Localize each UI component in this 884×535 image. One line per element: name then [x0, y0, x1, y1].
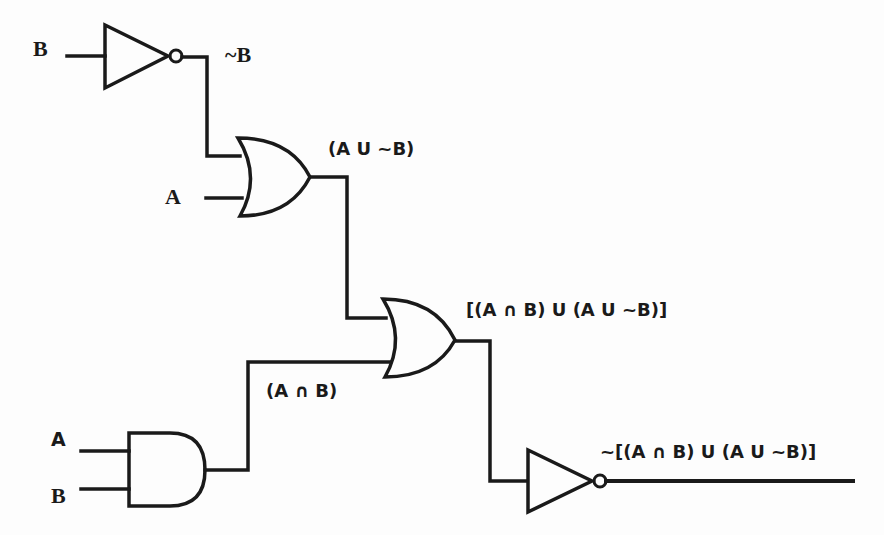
wire-a-and-b — [205, 362, 390, 470]
label-a-and-b: (A ∩ B) — [266, 382, 337, 400]
label-not-b: ~B — [225, 44, 251, 66]
not-gate-1 — [67, 25, 182, 88]
wire-not-b — [182, 57, 240, 156]
label-input-a-or1: A — [165, 186, 181, 208]
label-input-b-and: B — [51, 485, 66, 507]
or-gate-1 — [238, 138, 310, 216]
label-or2-output: [(A ∩ B) U (A U ~B)] — [466, 301, 667, 319]
label-input-a-and: A — [51, 430, 66, 449]
not-gate-1-triangle — [105, 25, 168, 88]
wire-a-or-not-b — [310, 177, 386, 318]
not-gate-2-triangle — [528, 450, 592, 512]
label-input-b-top: B — [33, 38, 48, 60]
and-gate — [129, 433, 205, 506]
or-gate-2 — [383, 299, 455, 377]
logic-circuit-diagram: B ~B A (A U ~B) [(A ∩ B) U (A U ~B)] (A … — [0, 0, 884, 535]
label-a-or-not-b: (A U ~B) — [328, 140, 414, 158]
label-final-output: ~[(A ∩ B) U (A U ~B)] — [600, 443, 816, 461]
wire-or2-output — [455, 341, 527, 481]
